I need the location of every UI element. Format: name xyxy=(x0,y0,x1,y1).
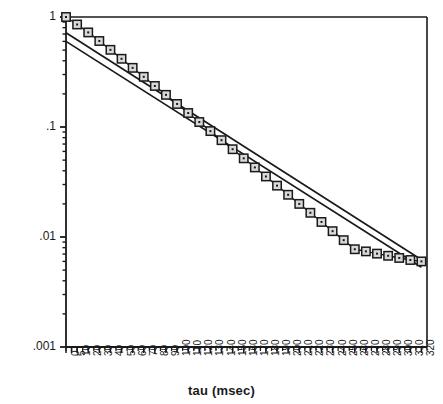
x-tick-label: 270 xyxy=(370,339,381,356)
x-tick-label: 210 xyxy=(303,339,314,356)
x-tick-label: 40 xyxy=(114,345,125,356)
x-tick-label: 320 xyxy=(425,339,436,356)
x-tick-label: 250 xyxy=(348,339,359,356)
x-tick-label: 10 xyxy=(81,345,92,356)
x-tick-label: 50 xyxy=(126,345,137,356)
x-tick-label: 100 xyxy=(181,339,192,356)
x-tick-label: 70 xyxy=(148,345,159,356)
x-tick-label: 150 xyxy=(237,339,248,356)
x-tick-label: 170 xyxy=(259,339,270,356)
x-tick-label: 190 xyxy=(281,339,292,356)
x-tick-label: 230 xyxy=(325,339,336,356)
x-tick-label: 260 xyxy=(359,339,370,356)
chart-figure: 1.1.01.001 05102030405060708090100110120… xyxy=(0,0,443,404)
x-tick-label: 30 xyxy=(103,345,114,356)
x-axis-title: tau (msec) xyxy=(0,383,443,398)
x-tick-label: 310 xyxy=(414,339,425,356)
x-tick-label: 280 xyxy=(381,339,392,356)
x-tick-label: 240 xyxy=(337,339,348,356)
x-tick-label: 80 xyxy=(159,345,170,356)
y-tick-label: .01 xyxy=(8,229,56,243)
y-tick-label: 1 xyxy=(8,9,56,23)
x-tick-label: 160 xyxy=(248,339,259,356)
x-tick-label: 110 xyxy=(192,340,203,356)
x-tick-label: 300 xyxy=(403,339,414,356)
x-tick-label: 140 xyxy=(226,339,237,356)
x-tick-label: 20 xyxy=(92,345,103,356)
fit-lines xyxy=(66,33,421,268)
x-tick-label: 290 xyxy=(392,339,403,356)
y-tick-label: .001 xyxy=(8,339,56,353)
x-tick-label: 180 xyxy=(270,339,281,356)
x-tick-label: 60 xyxy=(137,345,148,356)
x-tick-label: 220 xyxy=(314,339,325,356)
y-tick-label: .1 xyxy=(8,119,56,133)
x-tick-label: 130 xyxy=(214,339,225,356)
x-tick-label: 90 xyxy=(170,345,181,356)
x-tick-label: 200 xyxy=(292,339,303,356)
x-tick-label: 120 xyxy=(203,339,214,356)
